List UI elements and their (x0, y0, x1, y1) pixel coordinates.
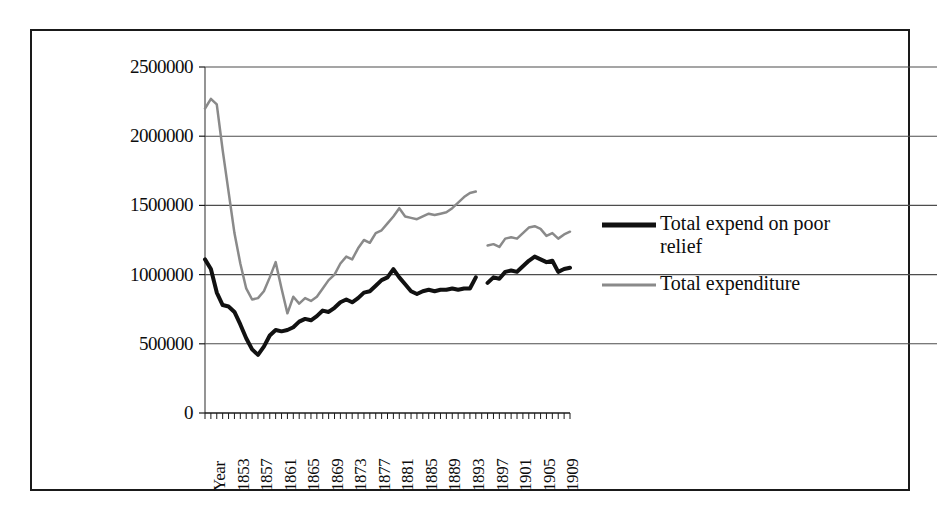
legend-label-1: Total expenditure (660, 272, 800, 295)
x-axis-tick-label: 1873 (352, 459, 369, 491)
x-axis-tick-label: 1861 (282, 459, 299, 491)
x-axis-tick-label: 1885 (423, 459, 440, 491)
x-axis-tick-label: 1909 (564, 459, 581, 491)
y-axis-tick-label: 2000000 (130, 126, 193, 145)
y-axis-tick-label: 0 (184, 403, 193, 422)
x-axis-tick-label: 1865 (305, 459, 322, 491)
series-line-1-segment-1 (488, 226, 570, 247)
legend-line-sample-1 (600, 278, 658, 292)
x-axis-tick-label: 1869 (329, 459, 346, 491)
x-axis-tick-label: 1905 (541, 459, 558, 491)
series-line-1-segment-0 (205, 99, 476, 314)
plot-area (0, 0, 937, 523)
x-axis-tick-label: 1857 (258, 459, 275, 491)
y-axis-tick-label: 500000 (139, 334, 193, 353)
series-line-0-segment-0 (205, 259, 476, 354)
series-line-0-segment-1 (488, 257, 570, 283)
y-axis-tick-label: 2500000 (130, 57, 193, 76)
x-axis-tick-label: 1893 (470, 459, 487, 491)
x-axis-tick-label: 1877 (376, 459, 393, 491)
line-chart: 05000001000000150000020000002500000 Year… (0, 0, 937, 523)
legend-label-0: Total expend on poor relief (660, 212, 830, 258)
x-axis-tick-label: 1853 (235, 459, 252, 491)
legend-line-sample-0 (600, 218, 658, 232)
y-axis-tick-label: 1000000 (130, 265, 193, 284)
x-axis-tick-label: Year (211, 461, 228, 491)
x-axis-tick-label: 1901 (517, 459, 534, 491)
y-axis-tick-label: 1500000 (130, 195, 193, 214)
x-axis-tick-label: 1889 (446, 459, 463, 491)
x-axis-tick-label: 1881 (399, 459, 416, 491)
x-axis-tick-label: 1897 (494, 459, 511, 491)
